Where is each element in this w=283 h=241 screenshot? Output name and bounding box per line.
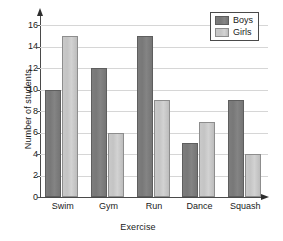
x-tick-label-dance: Dance [177, 201, 223, 211]
y-tick-label: 0 [20, 193, 38, 202]
y-tick-label: 16 [20, 21, 38, 30]
bar-gym-girls [108, 133, 124, 198]
y-tick-mark [37, 68, 40, 69]
plot-area [40, 25, 268, 197]
y-tick-label: 6 [20, 128, 38, 137]
y-tick-mark [37, 154, 40, 155]
y-tick-mark [37, 90, 40, 91]
y-tick-label: 10 [20, 85, 38, 94]
y-tick-label: 12 [20, 64, 38, 73]
y-axis-tick-labels: 0246810121416 [16, 25, 38, 197]
y-tick-label: 4 [20, 150, 38, 159]
bar-dance-boys [182, 143, 198, 197]
y-tick-mark [37, 25, 40, 26]
legend-label-girls: Girls [233, 28, 252, 37]
x-axis-title: Exercise [28, 222, 248, 232]
y-axis-arrow-icon [37, 8, 43, 16]
y-tick-mark [37, 111, 40, 112]
legend-item-girls[interactable]: Girls [215, 28, 253, 37]
legend-item-boys[interactable]: Boys [215, 16, 253, 25]
bar-swim-boys [45, 90, 61, 198]
x-tick-label-squash: Squash [222, 201, 268, 211]
bar-squash-boys [228, 100, 244, 197]
y-tick-mark [37, 47, 40, 48]
bar-squash-girls [245, 154, 261, 197]
bar-run-boys [137, 36, 153, 197]
x-tick-label-swim: Swim [40, 201, 86, 211]
y-tick-label: 14 [20, 42, 38, 51]
y-tick-label: 8 [20, 107, 38, 116]
bar-chart: Number of students 0246810121416 SwimGym… [0, 0, 283, 241]
legend: BoysGirls [210, 12, 259, 41]
x-tick-label-gym: Gym [86, 201, 132, 211]
y-tick-label: 2 [20, 171, 38, 180]
legend-swatch-boys [215, 16, 229, 25]
bar-dance-girls [199, 122, 215, 197]
bar-run-girls [154, 100, 170, 197]
legend-label-boys: Boys [233, 16, 253, 25]
legend-swatch-girls [215, 28, 229, 37]
y-tick-mark [37, 133, 40, 134]
x-tick-label-run: Run [131, 201, 177, 211]
y-tick-mark [37, 176, 40, 177]
bar-gym-boys [91, 68, 107, 197]
bar-swim-girls [62, 36, 78, 197]
y-tick-mark [37, 197, 40, 198]
